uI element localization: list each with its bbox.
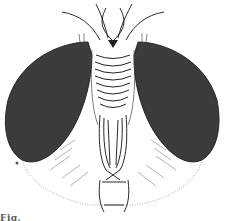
figure-caption: Fig. bbox=[0, 214, 21, 221]
left-compound-eye bbox=[5, 42, 92, 162]
fly-head-illustration bbox=[0, 0, 226, 221]
right-compound-eye bbox=[134, 42, 219, 162]
